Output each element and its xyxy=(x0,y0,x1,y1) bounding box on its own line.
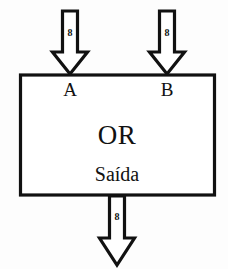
bus-width-label-a: 8 xyxy=(54,28,86,38)
bus-width-label-output: 8 xyxy=(101,212,133,222)
input-port-label-b: B xyxy=(151,80,183,99)
input-bus-arrow-b xyxy=(150,11,185,74)
gate-output-label: Saída xyxy=(57,164,177,184)
bus-width-label-b: 8 xyxy=(151,28,183,38)
gate-operation-label: OR xyxy=(57,122,177,149)
input-bus-arrow-a xyxy=(53,11,88,74)
output-bus-arrow xyxy=(100,196,135,265)
input-port-label-a: A xyxy=(54,80,86,99)
or-gate-diagram: 8 8 A B OR Saída 8 xyxy=(0,0,228,269)
